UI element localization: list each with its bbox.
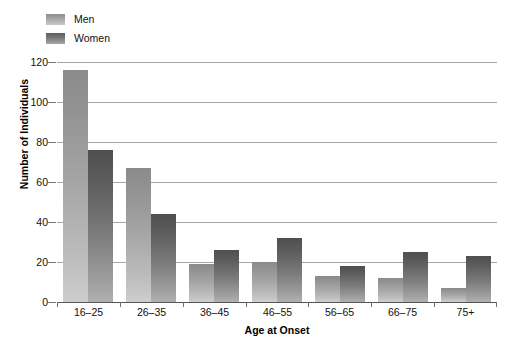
bar-men-4 [315,276,340,302]
men-swatch-icon [46,14,65,25]
y-tick-mark [48,142,56,143]
source-note [150,340,514,346]
x-tick-label: 75+ [434,306,497,318]
y-tick-mark [48,62,56,63]
bar-women-2 [214,250,239,302]
legend-item-men: Men [46,11,196,27]
bar-women-6 [466,256,491,302]
y-axis-title: Number of Individuals [18,44,30,224]
women-swatch-icon [46,33,65,44]
bar-men-0 [63,70,88,302]
gridline [57,182,497,183]
bar-women-4 [340,266,365,302]
y-tick-mark [48,182,56,183]
x-axis-baseline [57,302,497,303]
bar-men-2 [189,264,214,302]
x-tick-label: 46–55 [246,306,309,318]
bar-men-6 [441,288,466,302]
gridline [57,222,497,223]
legend-label-men: Men [74,14,94,25]
x-axis-ticks: 16–2526–3536–4546–5556–6566–7575+ [57,306,497,322]
x-tick-label: 26–35 [120,306,183,318]
gridline [57,142,497,143]
x-axis-title: Age at Onset [57,324,497,336]
bar-men-5 [378,278,403,302]
y-tick-mark [48,102,56,103]
bar-chart-figure: Men Women 020406080100120 Number of Indi… [0,0,514,346]
x-tick-label: 36–45 [183,306,246,318]
y-tick-label: 0 [14,297,48,307]
gridline [57,62,497,63]
bar-men-1 [126,168,151,302]
y-tick-mark [48,222,56,223]
legend-label-women: Women [74,33,110,44]
bar-women-3 [277,238,302,302]
legend-item-women: Women [46,30,196,46]
gridline [57,102,497,103]
bar-women-5 [403,252,428,302]
bar-women-0 [88,150,113,302]
y-tick-mark [48,262,56,263]
y-tick-label: 20 [14,257,48,267]
bar-men-3 [252,262,277,302]
bar-women-1 [151,214,176,302]
chart-legend: Men Women [46,11,196,49]
x-tick-label: 66–75 [371,306,434,318]
x-tick-label: 16–25 [57,306,120,318]
x-tick-label: 56–65 [308,306,371,318]
plot-area [57,62,497,302]
y-tick-mark [48,302,56,303]
